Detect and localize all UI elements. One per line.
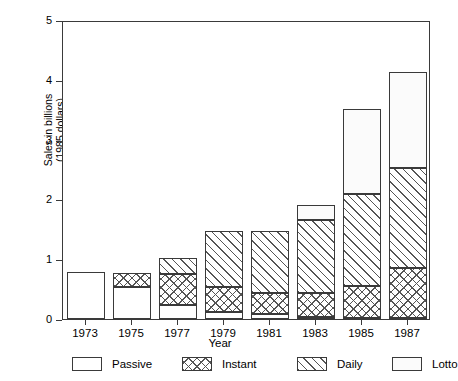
legend-label-instant: Instant xyxy=(222,358,257,371)
y-tick-label: 0 xyxy=(34,314,52,325)
bar-segment-daily xyxy=(389,168,427,268)
x-tick-mark xyxy=(269,320,270,325)
x-tick-mark xyxy=(223,320,224,325)
bar-segment-lotto xyxy=(389,72,427,168)
bar-1975 xyxy=(113,273,151,319)
bar-1987 xyxy=(389,72,427,319)
bar-segment-instant xyxy=(389,268,427,319)
bar-1973 xyxy=(67,272,105,319)
x-tick-mark xyxy=(315,320,316,325)
legend-label-daily: Daily xyxy=(337,358,363,371)
x-tick-mark xyxy=(407,320,408,325)
legend-swatch-passive xyxy=(72,357,102,371)
y-tick-label: 5 xyxy=(34,15,52,26)
x-tick-label-1981: 1981 xyxy=(246,327,292,339)
bar-segment-passive xyxy=(297,317,335,319)
bar-1979 xyxy=(205,231,243,319)
x-axis-title: Year xyxy=(200,337,240,349)
bar-segment-daily xyxy=(205,231,243,287)
x-tick-label-1975: 1975 xyxy=(108,327,154,339)
bar-segment-instant xyxy=(205,287,243,312)
legend-label-passive: Passive xyxy=(112,358,152,371)
bar-segment-daily xyxy=(159,258,197,274)
bar-segment-instant xyxy=(159,274,197,305)
bar-segment-daily xyxy=(343,194,381,286)
legend-label-lotto: Lotto xyxy=(432,358,458,371)
bar-segment-passive xyxy=(159,305,197,319)
legend-swatch-lotto xyxy=(392,357,422,371)
bar-segment-daily xyxy=(297,220,335,293)
bar-segment-daily xyxy=(251,231,289,293)
x-tick-mark xyxy=(361,320,362,325)
x-tick-label-1973: 1973 xyxy=(62,327,108,339)
y-tick-label: 2 xyxy=(34,194,52,205)
bar-1981 xyxy=(251,231,289,320)
bar-1977 xyxy=(159,258,197,319)
x-tick-label-1977: 1977 xyxy=(154,327,200,339)
y-tick-label: 3 xyxy=(34,135,52,146)
bar-segment-instant xyxy=(343,286,381,318)
bar-segment-lotto xyxy=(297,205,335,220)
x-tick-mark xyxy=(131,320,132,325)
y-tick-label: 4 xyxy=(34,75,52,86)
bar-segment-passive xyxy=(67,272,105,319)
y-axis-title-line1: Sales in billions xyxy=(42,70,54,190)
bar-1985 xyxy=(343,109,381,319)
plot-area xyxy=(62,21,430,320)
y-tick-mark xyxy=(56,320,62,321)
x-tick-label-1983: 1983 xyxy=(292,327,338,339)
bar-segment-passive xyxy=(113,287,151,319)
x-tick-label-1987: 1987 xyxy=(384,327,430,339)
x-tick-label-1985: 1985 xyxy=(338,327,384,339)
bar-segment-instant xyxy=(297,293,335,318)
bar-segment-passive xyxy=(205,312,243,319)
bar-segment-instant xyxy=(113,273,151,287)
y-tick-label: 1 xyxy=(34,254,52,265)
x-tick-mark xyxy=(85,320,86,325)
x-tick-mark xyxy=(177,320,178,325)
legend-swatch-instant xyxy=(182,357,212,371)
bar-segment-instant xyxy=(251,293,289,315)
bar-segment-lotto xyxy=(343,109,381,194)
bar-segment-passive xyxy=(251,314,289,319)
bar-1983 xyxy=(297,205,335,319)
legend-swatch-daily xyxy=(297,357,327,371)
legend: PassiveInstantDailyLotto xyxy=(62,356,442,376)
